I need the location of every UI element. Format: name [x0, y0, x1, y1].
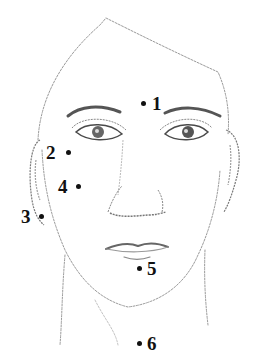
point-label: 1	[152, 94, 162, 113]
point-label: 6	[147, 334, 157, 353]
point-label: 5	[147, 259, 157, 278]
point-marker-icon	[66, 150, 71, 155]
point-marker-icon	[137, 266, 142, 271]
face-sketch-icon	[0, 0, 256, 364]
point-marker-icon	[141, 101, 146, 106]
point-label: 2	[46, 143, 56, 162]
point-label: 4	[58, 177, 68, 196]
point-marker-icon	[137, 341, 142, 346]
point-label: 3	[21, 207, 31, 226]
point-marker-icon	[76, 184, 81, 189]
point-marker-icon	[39, 214, 44, 219]
face-diagram: 1 2 3 4 5 6	[0, 0, 256, 364]
